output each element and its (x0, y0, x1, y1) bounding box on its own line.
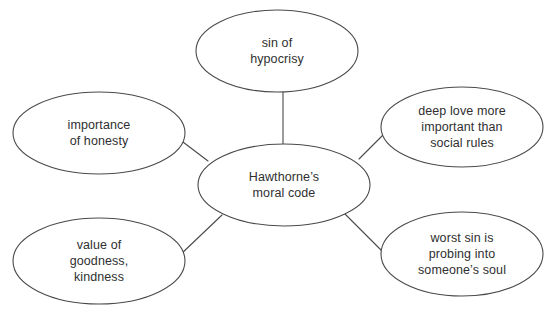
connector-line-deep-love-more-important (359, 132, 386, 159)
node-ellipse-deep-love-more-important[interactable] (381, 87, 543, 167)
connector-line-value-of-goodness-kindness (180, 215, 222, 255)
node-ellipse-importance-of-honesty[interactable] (13, 92, 185, 174)
diagram-canvas (0, 0, 553, 313)
connector-line-worst-sin-is-probing (342, 211, 384, 253)
node-ellipse-value-of-goodness-kindness[interactable] (13, 218, 185, 304)
concept-map-diagram: Hawthorne’s moral codesin of hypocrisyim… (0, 0, 553, 313)
node-ellipse-center[interactable] (198, 144, 370, 226)
node-ellipse-worst-sin-is-probing[interactable] (381, 212, 543, 296)
node-ellipse-sin-of-hypocrisy[interactable] (196, 10, 358, 92)
ellipse-layer (13, 10, 543, 304)
